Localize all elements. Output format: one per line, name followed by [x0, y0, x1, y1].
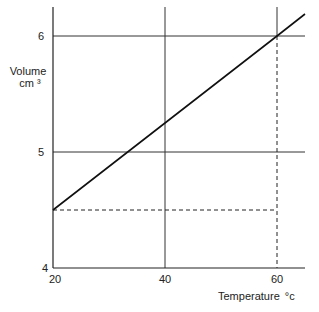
grid — [53, 7, 305, 268]
ytick-4: 4 — [42, 262, 48, 274]
y-axis-label-line2: cm ³ — [19, 77, 41, 89]
data-line — [53, 14, 305, 210]
y-axis-label-line1: Volume — [10, 65, 47, 77]
x-axis-unit: °c — [285, 290, 295, 302]
xtick-20: 20 — [49, 273, 61, 285]
xtick-40: 40 — [159, 273, 171, 285]
x-axis-label: Temperature — [218, 290, 280, 302]
xtick-60: 60 — [271, 273, 283, 285]
ytick-6: 6 — [38, 30, 44, 42]
axes — [53, 7, 305, 268]
ytick-5: 5 — [38, 146, 44, 158]
line-chart: 6 5 4 20 40 60 Volume cm ³ Temperature °… — [0, 0, 319, 312]
